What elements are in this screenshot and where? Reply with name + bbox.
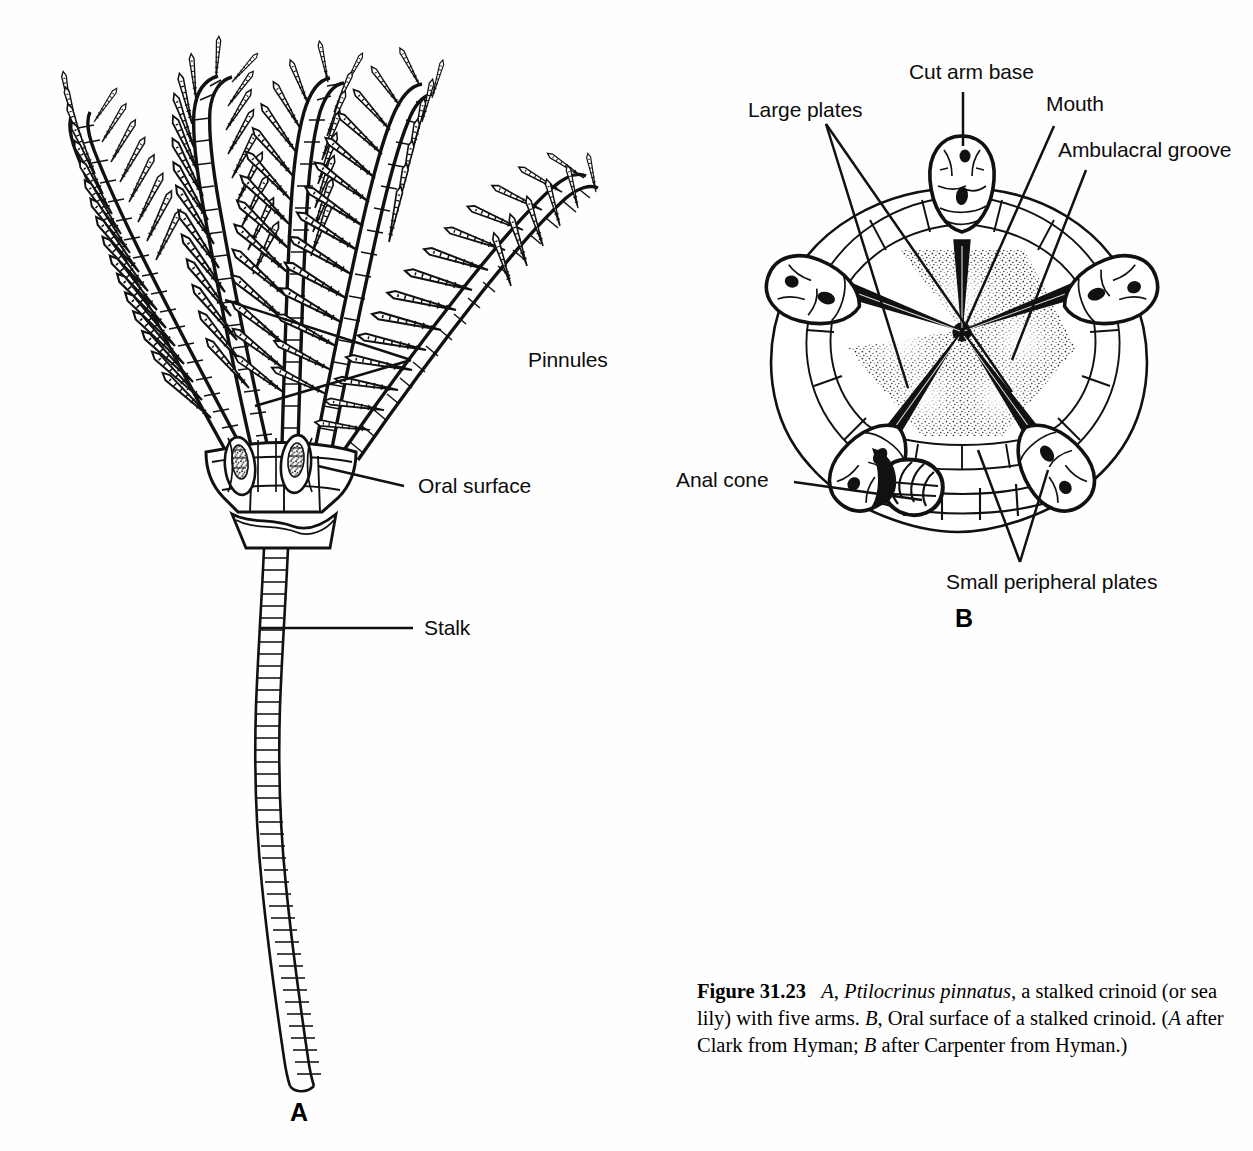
label-ambulacral-groove: Ambulacral groove bbox=[1058, 138, 1231, 161]
panel-letter-b: B bbox=[955, 604, 973, 633]
caption-figure-number: Figure 31.23 bbox=[697, 980, 806, 1002]
label-mouth: Mouth bbox=[1046, 92, 1104, 115]
crinoid-calyx bbox=[206, 434, 356, 548]
label-anal-cone: Anal cone bbox=[676, 468, 769, 491]
label-oral-surface: Oral surface bbox=[418, 474, 531, 497]
label-pinnules: Pinnules bbox=[528, 348, 608, 371]
caption-part-a-letter: A bbox=[821, 980, 834, 1002]
crinoid-arms bbox=[61, 36, 598, 460]
crinoid-stalk bbox=[255, 548, 321, 1091]
caption-credit-a-letter: A bbox=[1168, 1007, 1181, 1029]
caption-part-b-letter: B bbox=[865, 1007, 878, 1029]
arm-left-outer bbox=[61, 71, 247, 455]
caption-credit-2: after Carpenter from Hyman.) bbox=[876, 1034, 1127, 1056]
label-stalk: Stalk bbox=[424, 616, 470, 639]
arm-right-inner bbox=[270, 47, 444, 448]
label-small-peripheral-plates: Small peripheral plates bbox=[946, 570, 1157, 593]
panel-a-artwork bbox=[61, 36, 598, 1091]
panel-b-artwork bbox=[758, 92, 1166, 562]
arm-right-outer bbox=[314, 151, 598, 460]
label-large-plates: Large plates bbox=[748, 98, 862, 121]
panel-letter-a: A bbox=[290, 1098, 308, 1127]
caption-comma-a: , bbox=[834, 980, 844, 1002]
caption-text-2: , Oral surface of a stalked crinoid. ( bbox=[878, 1007, 1169, 1029]
figure-caption: Figure 31.23 A, Ptilocrinus pinnatus, a … bbox=[697, 978, 1253, 1059]
caption-credit-b-letter: B bbox=[864, 1034, 877, 1056]
figure-31-23: Pinnules Oral surface Stalk A Cut arm ba… bbox=[0, 0, 1253, 1151]
arm-left-inner bbox=[170, 36, 282, 450]
label-cut-arm-base: Cut arm base bbox=[909, 60, 1034, 83]
caption-species-name: Ptilocrinus pinnatus bbox=[844, 980, 1011, 1002]
